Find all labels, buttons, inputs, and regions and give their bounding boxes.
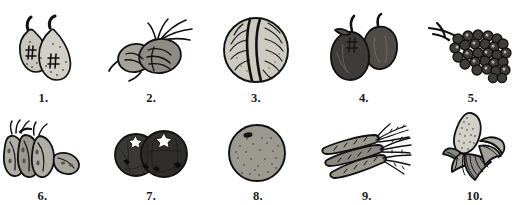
picture-cell-4[interactable]: 4. (308, 4, 411, 104)
picture-cell-8[interactable]: 8. (206, 112, 309, 202)
picture-row-top: 1. (0, 4, 514, 104)
picture-label-9: 9. (362, 190, 372, 203)
picture-label-8: 8. (253, 190, 263, 203)
picture-cell-7[interactable]: 7. (103, 112, 206, 202)
picture-label-2: 2. (146, 92, 156, 105)
corn-cob-icon (421, 110, 514, 184)
carrot-bunch-icon (314, 112, 417, 184)
picture-label-3: 3. (251, 92, 261, 105)
cabbage-icon (205, 12, 308, 86)
picture-label-1: 1. (39, 92, 49, 105)
picture-cell-10[interactable]: 10. (411, 112, 514, 202)
picture-label-7: 7. (146, 190, 156, 203)
picture-label-6: 6. (38, 190, 48, 203)
pea-pods-icon (0, 112, 95, 184)
picture-grid-sheet: 1. (0, 0, 514, 205)
picture-cell-5[interactable]: 5. (411, 4, 514, 104)
picture-cell-6[interactable]: 6. (0, 112, 103, 202)
picture-row-bottom: 6. (0, 112, 514, 202)
picture-cell-2[interactable]: 2. (103, 4, 206, 104)
picture-label-4: 4. (359, 92, 369, 105)
picture-cell-1[interactable]: 1. (0, 4, 103, 104)
orange-icon (206, 112, 309, 184)
grape-bunch-icon (419, 12, 514, 86)
picture-label-5: 5. (468, 92, 478, 105)
tomato-pair-icon (100, 112, 203, 184)
picture-cell-3[interactable]: 3. (206, 4, 309, 104)
beet-pair-icon (101, 12, 204, 86)
picture-cell-9[interactable]: 9. (308, 112, 411, 202)
apple-pair-icon (311, 12, 414, 86)
picture-label-10: 10. (466, 190, 482, 203)
pear-pair-icon (0, 12, 97, 86)
